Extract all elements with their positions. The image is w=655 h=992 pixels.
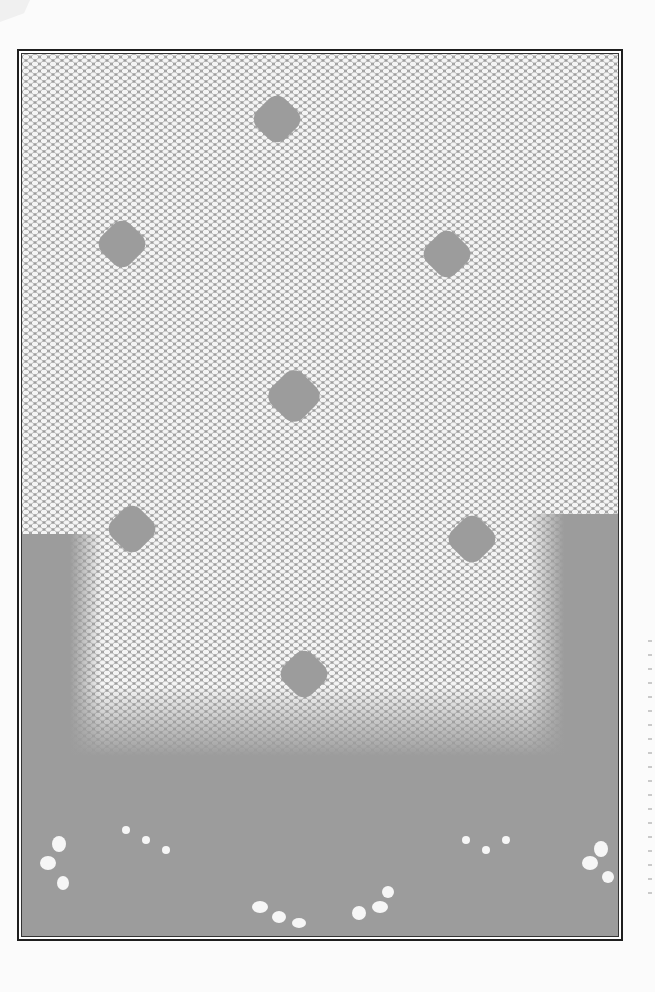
picture-frame [17, 49, 623, 941]
lace-scallop-border [22, 686, 618, 936]
lace-motif [419, 226, 476, 283]
page-corner-curl [0, 0, 30, 22]
lace-motif [444, 511, 501, 568]
lace-motif [94, 216, 151, 273]
lace-motif [263, 365, 325, 427]
lace-mesh-pattern [21, 53, 619, 937]
lace-motif [104, 501, 161, 558]
lace-motif [249, 91, 306, 148]
scan-edge-marks [648, 640, 652, 900]
